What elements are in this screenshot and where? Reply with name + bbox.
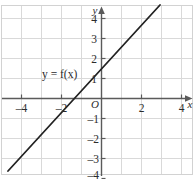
x-tick-label-4: 4 [179, 102, 185, 114]
y-tick-label-2: 2 [91, 53, 97, 65]
y-tick-label-1: 1 [91, 73, 97, 85]
y-tick-label-3: 3 [91, 33, 97, 45]
graph-figure: –4 –2 2 4 4 3 2 1 –1 –2 –3 –4 O y x y = … [0, 0, 196, 179]
y-tick-label-neg4: –4 [87, 169, 100, 179]
origin-label: O [91, 98, 99, 110]
y-tick-label-neg2: –2 [87, 133, 100, 145]
coordinate-plane-svg: –4 –2 2 4 4 3 2 1 –1 –2 –3 –4 O y x y = … [0, 0, 196, 179]
x-tick-label-neg4: –4 [15, 102, 28, 114]
y-tick-label-neg3: –3 [87, 153, 100, 165]
y-axis-label: y [92, 4, 98, 16]
x-tick-label-2: 2 [139, 102, 145, 114]
x-axis-label: x [187, 98, 193, 110]
function-label: y = f(x) [42, 68, 77, 81]
x-tick-label-neg2: –2 [55, 102, 68, 114]
y-tick-label-neg1: –1 [87, 113, 100, 125]
